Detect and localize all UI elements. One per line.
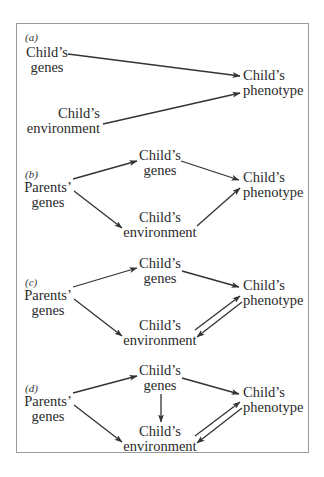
node-c-parents-genes: Parents’ genes bbox=[20, 288, 76, 318]
arrow-d-parents-to-genes bbox=[73, 376, 137, 393]
node-c-child-environment: Child’s environment bbox=[120, 318, 200, 348]
arrow-b-parents-to-env bbox=[74, 191, 122, 228]
node-label-line: Child’s bbox=[135, 256, 185, 271]
node-a-child-environment: Child’s environment bbox=[20, 106, 100, 136]
node-b-child-environment: Child’s environment bbox=[120, 210, 200, 240]
node-label-line: environment bbox=[20, 121, 100, 136]
arrow-c-phenotype-to-env bbox=[197, 302, 242, 337]
node-label-line: genes bbox=[135, 378, 185, 393]
node-label-line: Parents’ bbox=[20, 394, 76, 409]
arrow-b-genes-to-phenotype bbox=[181, 161, 239, 180]
node-label-line: phenotype bbox=[243, 185, 303, 200]
node-label-line: environment bbox=[120, 225, 200, 240]
node-d-child-environment: Child’s environment bbox=[120, 424, 200, 454]
arrow-d-genes-to-phenotype bbox=[182, 378, 239, 394]
node-b-child-genes: Child’s genes bbox=[135, 148, 185, 178]
node-label-line: Child’s bbox=[20, 106, 100, 121]
node-label-line: Child’s bbox=[120, 318, 200, 333]
arrow-a-env-to-phenotype bbox=[103, 93, 240, 124]
node-label-line: Child’s bbox=[243, 170, 303, 185]
node-a-child-phenotype: Child’s phenotype bbox=[243, 68, 303, 98]
arrow-c-env-to-phenotype bbox=[195, 296, 240, 330]
node-b-child-phenotype: Child’s phenotype bbox=[243, 170, 303, 200]
node-label-line: genes bbox=[22, 60, 72, 75]
node-label-line: Parents’ bbox=[20, 180, 76, 195]
node-label-line: Parents’ bbox=[20, 288, 76, 303]
arrow-d-parents-to-env bbox=[74, 405, 122, 442]
arrow-d-env-to-phenotype bbox=[195, 402, 240, 436]
arrow-a-genes-to-phenotype bbox=[68, 54, 240, 76]
arrow-c-parents-to-genes bbox=[73, 268, 137, 287]
node-label-line: Child’s bbox=[22, 45, 72, 60]
node-c-child-phenotype: Child’s phenotype bbox=[243, 278, 303, 308]
arrow-c-parents-to-env bbox=[74, 299, 122, 336]
node-label-line: phenotype bbox=[243, 400, 303, 415]
arrow-c-genes-to-phenotype bbox=[182, 271, 239, 287]
node-d-parents-genes: Parents’ genes bbox=[20, 394, 76, 424]
node-c-child-genes: Child’s genes bbox=[135, 256, 185, 286]
node-label-line: Child’s bbox=[120, 210, 200, 225]
node-label-line: phenotype bbox=[243, 293, 303, 308]
node-label-line: Child’s bbox=[243, 385, 303, 400]
node-a-child-genes: Child’s genes bbox=[22, 45, 72, 75]
node-label-line: Child’s bbox=[243, 278, 303, 293]
node-label-line: Child’s bbox=[135, 363, 185, 378]
arrow-b-parents-to-genes bbox=[73, 161, 137, 179]
panel-label-a: (a) bbox=[25, 31, 38, 43]
arrow-d-phenotype-to-env bbox=[197, 408, 242, 443]
node-label-line: genes bbox=[20, 195, 76, 210]
node-d-child-genes: Child’s genes bbox=[135, 363, 185, 393]
node-label-line: phenotype bbox=[243, 83, 303, 98]
node-d-child-phenotype: Child’s phenotype bbox=[243, 385, 303, 415]
node-label-line: Child’s bbox=[135, 148, 185, 163]
node-label-line: genes bbox=[20, 409, 76, 424]
arrow-b-env-to-phenotype bbox=[197, 188, 240, 226]
node-label-line: genes bbox=[135, 271, 185, 286]
node-label-line: Child’s bbox=[243, 68, 303, 83]
node-label-line: genes bbox=[135, 163, 185, 178]
node-b-parents-genes: Parents’ genes bbox=[20, 180, 76, 210]
node-label-line: genes bbox=[20, 303, 76, 318]
node-label-line: environment bbox=[120, 333, 200, 348]
node-label-line: Child’s bbox=[120, 424, 200, 439]
node-label-line: environment bbox=[120, 439, 200, 454]
